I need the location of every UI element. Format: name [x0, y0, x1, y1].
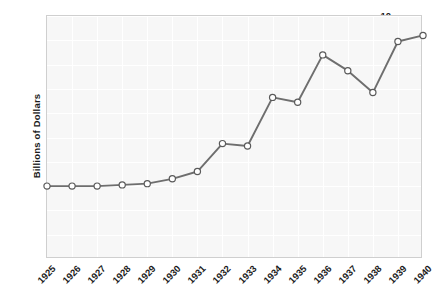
x-axis-tick-text: 1933 [236, 263, 259, 286]
gridline-vertical [423, 16, 424, 257]
data-point-marker: 1935: 6.45 [295, 99, 301, 105]
x-axis-tick-text: 1934 [261, 263, 284, 286]
data-point-marker: 1927: 3 [94, 183, 100, 189]
data-point-marker: 1934: 6.65 [270, 94, 276, 100]
x-axis-tick-text: 1926 [60, 263, 83, 286]
data-point-marker: 1929: 3.1 [144, 181, 150, 187]
data-point-marker: 1930: 3.3 [169, 176, 175, 182]
x-axis-tick-text: 1939 [386, 263, 409, 286]
x-axis-tick-text: 1930 [160, 263, 183, 286]
data-point-marker: 1931: 3.6 [194, 168, 200, 174]
data-point-marker: 1940: 9.2 [420, 32, 426, 38]
x-axis-tick-text: 1936 [311, 263, 334, 286]
data-point-marker: 1938: 6.85 [370, 89, 376, 95]
series-line [47, 35, 423, 186]
x-axis-tick-text: 1937 [336, 263, 359, 286]
data-point-marker: 1939: 8.95 [395, 38, 401, 44]
x-axis-tick-label: 1940 [426, 248, 441, 271]
x-axis-tick-text: 1925 [35, 263, 58, 286]
x-axis-tick-text: 1927 [85, 263, 108, 286]
x-axis-tick-text: 1929 [135, 263, 158, 286]
x-axis-tick-text: 1938 [361, 263, 384, 286]
data-point-marker: 1937: 7.75 [345, 68, 351, 74]
data-point-marker: 1926: 3 [69, 183, 75, 189]
data-point-marker: 1925: 3 [44, 183, 50, 189]
data-point-marker: 1932: 4.75 [219, 140, 225, 146]
y-axis-title-area: Billions of Dollars [0, 14, 22, 258]
x-axis-tick-text: 1940 [411, 263, 434, 286]
data-point-marker: 1936: 8.4 [320, 52, 326, 58]
data-series-line: 1925: 31926: 31927: 31928: 3.051929: 3.1… [47, 16, 423, 259]
x-axis-tick-text: 1931 [185, 263, 208, 286]
x-axis-tick-text: 1928 [110, 263, 133, 286]
x-axis-tick-text: 1935 [286, 263, 309, 286]
x-axis-tick-text: 1932 [211, 263, 234, 286]
data-point-marker: 1928: 3.05 [119, 182, 125, 188]
y-axis-title: Billions of Dollars [31, 56, 42, 216]
data-point-marker: 1933: 4.65 [244, 143, 250, 149]
plot-area: 1925: 31926: 31927: 31928: 3.051929: 3.1… [46, 15, 422, 258]
line-chart: Billions of Dollars 10987654321 1925: 31… [0, 0, 441, 307]
